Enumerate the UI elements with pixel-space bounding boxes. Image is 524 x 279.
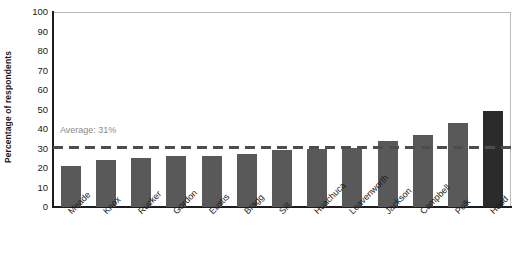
y-tick-label: 20 [18, 163, 48, 173]
bar [483, 111, 503, 207]
average-reference-line [53, 146, 511, 149]
x-axis-tick-labels: MeadeKnoxRuckerGordonEustisBraggSillHuac… [53, 209, 511, 279]
bar [448, 123, 468, 207]
y-tick-label: 80 [18, 46, 48, 56]
y-tick-label: 60 [18, 85, 48, 95]
y-tick-label: 30 [18, 144, 48, 154]
y-tick-label: 10 [18, 183, 48, 193]
y-tick-label: 90 [18, 27, 48, 37]
y-tick-label: 50 [18, 105, 48, 115]
bar-chart: Percentage of respondents 10090807060504… [0, 0, 524, 279]
y-tick-label: 70 [18, 66, 48, 76]
y-axis-title-label: Percentage of respondents [3, 51, 13, 163]
bars-group [53, 12, 511, 207]
y-tick-label: 100 [18, 7, 48, 17]
bar [272, 150, 292, 207]
average-label: Average: 31% [60, 125, 116, 135]
y-tick-label: 40 [18, 124, 48, 134]
y-tick-label: 0 [18, 202, 48, 212]
y-axis-tick-labels: 1009080706050403020100 [14, 0, 48, 215]
